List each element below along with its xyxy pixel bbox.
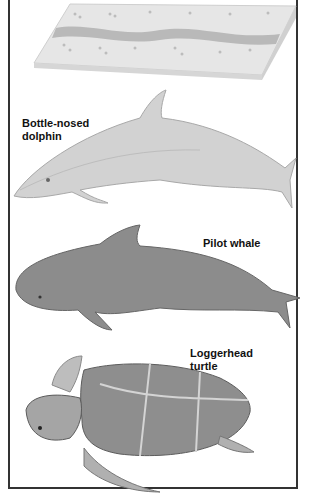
loggerhead-turtle-illustration: [26, 356, 254, 492]
label-line: Loggerhead: [190, 347, 253, 360]
illustration-canvas: [0, 0, 319, 499]
dolphin-illustration: [14, 90, 296, 208]
label-line: turtle: [190, 360, 253, 373]
sediment-slab-illustration: [34, 4, 296, 80]
label-line: dolphin: [22, 130, 89, 143]
label-loggerhead-turtle: Loggerhead turtle: [190, 347, 253, 373]
label-line: Bottle-nosed: [22, 117, 89, 130]
label-bottle-nosed-dolphin: Bottle-nosed dolphin: [22, 117, 89, 143]
label-pilot-whale: Pilot whale: [203, 237, 260, 250]
label-line: Pilot whale: [203, 237, 260, 250]
